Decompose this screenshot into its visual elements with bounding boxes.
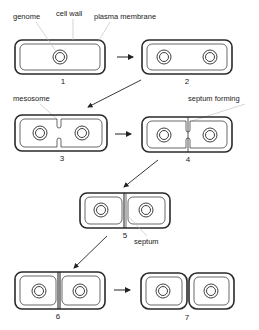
label-genome: genome (13, 12, 40, 21)
genome-icon (94, 203, 108, 217)
stage-number-5: 5 (123, 231, 128, 240)
pointer-line-septum (126, 214, 147, 236)
arrow-4-to-5 (124, 160, 158, 187)
stage-number-7: 7 (185, 313, 190, 322)
stage-4-cell (142, 117, 232, 152)
label-mesosome: mesosome (13, 94, 50, 103)
genome-icon (33, 126, 47, 140)
stage-number-1: 1 (61, 77, 66, 86)
stage-2-cell (142, 40, 232, 74)
genome-icon (53, 50, 67, 64)
stage-number-4: 4 (186, 155, 191, 164)
genome-icon (203, 50, 217, 64)
binary-fission-diagram: 1 genome cell wall plasma membrane 2 mes… (0, 0, 259, 330)
genome-icon (156, 284, 170, 298)
arrow-2-to-3 (88, 80, 141, 107)
stage-1-cell (15, 40, 105, 74)
stage-6-cell (15, 272, 105, 309)
stage-7-cells (141, 273, 234, 309)
stage-3-cell (15, 115, 107, 151)
genome-icon (204, 284, 218, 298)
arrow-5-to-6 (74, 236, 107, 268)
label-plasma-membrane: plasma membrane (94, 12, 156, 21)
stage-number-3: 3 (60, 154, 65, 163)
pointer-lines-stage-3-4 (40, 104, 245, 121)
stage-number-6: 6 (56, 312, 61, 321)
stage-5-cell (80, 193, 170, 228)
genome-icon (203, 128, 217, 142)
genome-icon (73, 284, 87, 298)
stage-number-2: 2 (185, 77, 190, 86)
genome-icon (157, 50, 171, 64)
genome-icon (75, 126, 89, 140)
label-septum-forming: septum forming (188, 94, 240, 103)
label-cell-wall: cell wall (56, 9, 83, 18)
label-septum: septum (134, 237, 159, 246)
genome-icon (157, 128, 171, 142)
genome-icon (139, 203, 153, 217)
diagram-canvas: 1 genome cell wall plasma membrane 2 mes… (0, 0, 259, 330)
genome-icon (32, 284, 46, 298)
